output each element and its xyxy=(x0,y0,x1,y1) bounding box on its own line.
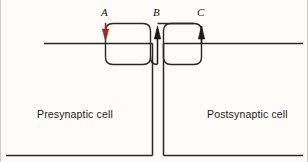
diagram-canvas xyxy=(0,0,308,162)
arrow-a-head xyxy=(102,29,108,41)
postsynaptic-cell-label: Postsynaptic cell xyxy=(207,108,288,120)
marker-label-a: A xyxy=(101,6,108,18)
marker-label-c: C xyxy=(197,6,205,18)
synapse-diagram: A B C Presynaptic cell Postsynaptic cell xyxy=(0,0,308,162)
presynaptic-cell-label: Presynaptic cell xyxy=(37,108,113,120)
signal-stem-b-base xyxy=(151,57,158,65)
marker-label-b: B xyxy=(153,6,160,18)
arrow-c-head xyxy=(198,26,204,39)
arrow-b-head xyxy=(154,26,160,39)
